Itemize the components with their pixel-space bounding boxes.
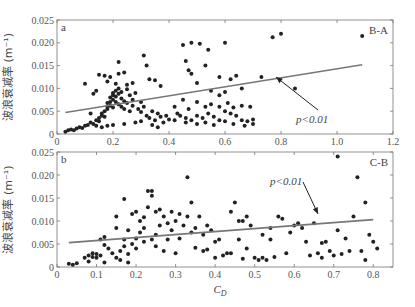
data-point — [181, 224, 185, 228]
data-point — [122, 197, 126, 201]
data-point — [189, 201, 193, 205]
data-point — [131, 81, 135, 85]
data-point — [117, 86, 121, 90]
data-point — [221, 254, 225, 258]
data-point — [240, 86, 244, 90]
x-tick-label: 0.2 — [107, 136, 120, 147]
data-point — [268, 237, 272, 241]
data-point — [259, 75, 263, 79]
data-point — [114, 226, 118, 230]
x-tick-label: 0.4 — [163, 136, 176, 147]
data-point — [229, 77, 233, 81]
data-point — [114, 214, 118, 218]
data-point — [257, 258, 261, 262]
data-point — [265, 258, 269, 262]
y-tick-label: 0.020 — [32, 37, 55, 48]
data-point — [158, 224, 162, 228]
x-tick-label: 0.6 — [288, 269, 301, 280]
data-point — [119, 90, 123, 94]
data-point — [203, 64, 207, 68]
data-point — [173, 105, 177, 109]
x-tick-label: 0.8 — [275, 136, 288, 147]
data-point — [128, 93, 132, 97]
data-point — [111, 123, 115, 127]
data-point — [102, 243, 106, 247]
panel-group-label: C-B — [370, 156, 388, 168]
data-point — [170, 210, 174, 214]
x-axis-label: CD — [213, 283, 226, 298]
data-point — [348, 249, 352, 253]
data-point — [223, 41, 227, 45]
data-point — [332, 254, 336, 258]
data-point — [110, 251, 114, 255]
data-point — [185, 214, 189, 218]
y-tick-label: 0.005 — [32, 106, 55, 117]
data-point — [97, 73, 101, 77]
data-point — [67, 262, 71, 266]
data-point — [203, 121, 207, 125]
data-point — [253, 256, 257, 260]
data-point — [175, 111, 179, 115]
p-value-annotation: p<0.01 — [269, 175, 302, 187]
data-point — [363, 201, 367, 205]
data-point — [344, 236, 348, 240]
data-point — [105, 80, 109, 84]
data-point — [241, 257, 245, 261]
data-point — [102, 235, 106, 239]
data-point — [209, 102, 213, 106]
data-point — [184, 116, 188, 120]
data-point — [251, 117, 255, 121]
data-point — [98, 254, 102, 258]
data-point — [150, 123, 154, 127]
data-point — [91, 251, 95, 255]
data-point — [367, 233, 371, 237]
data-point — [91, 92, 95, 96]
data-point — [126, 260, 130, 264]
panel-a: 00.20.40.60.81.01.200.0050.0100.0150.020… — [1, 15, 399, 148]
data-point — [126, 252, 130, 256]
data-point — [201, 249, 205, 253]
data-point — [248, 105, 252, 109]
data-point — [150, 237, 154, 241]
data-point — [162, 214, 166, 218]
data-point — [156, 111, 160, 115]
data-point — [320, 256, 324, 260]
data-point — [122, 244, 126, 248]
y-tick-label: 0 — [49, 262, 54, 273]
panel-b: 00.10.20.30.40.50.60.70.800.0050.0100.01… — [1, 147, 393, 299]
data-point — [133, 121, 137, 125]
data-point — [122, 70, 126, 74]
p-value-annotation: p<0.01 — [295, 113, 328, 125]
data-point — [223, 119, 227, 123]
data-point — [261, 256, 265, 260]
data-point — [229, 251, 233, 255]
data-point — [118, 249, 122, 253]
data-point — [178, 212, 182, 216]
panel-letter: b — [61, 153, 67, 165]
y-tick-label: 0.015 — [32, 193, 55, 204]
data-point — [100, 125, 104, 129]
y-axis-label: 波浪衰减率 (m⁻¹) — [1, 33, 15, 121]
data-point — [166, 237, 170, 241]
data-point — [328, 249, 332, 253]
y-tick-label: 0.025 — [32, 147, 55, 158]
scatter-chart-figure: 00.20.40.60.81.01.200.0050.0100.0150.020… — [0, 0, 415, 307]
data-point — [131, 104, 135, 108]
data-point — [271, 35, 275, 39]
data-point — [173, 118, 177, 122]
data-point — [142, 215, 146, 219]
data-point — [117, 60, 121, 64]
data-point — [75, 261, 79, 265]
data-point — [142, 226, 146, 230]
data-point — [97, 119, 101, 123]
data-point — [106, 247, 110, 251]
data-point — [95, 252, 99, 256]
data-point — [240, 104, 244, 108]
panel-group-label: B-A — [369, 24, 388, 36]
data-point — [206, 111, 210, 115]
y-tick-label: 0.020 — [32, 170, 55, 181]
data-point — [201, 116, 205, 120]
data-point — [181, 98, 185, 102]
data-point — [280, 217, 284, 221]
data-point — [243, 124, 247, 128]
